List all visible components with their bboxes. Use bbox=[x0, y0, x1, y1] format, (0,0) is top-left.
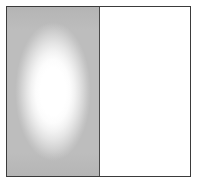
radial-glow bbox=[7, 7, 99, 176]
figure-frame bbox=[6, 6, 191, 177]
panel-left-gradient-field bbox=[7, 7, 100, 176]
panel-right-blank-field bbox=[100, 7, 190, 176]
figure-root bbox=[0, 0, 197, 183]
